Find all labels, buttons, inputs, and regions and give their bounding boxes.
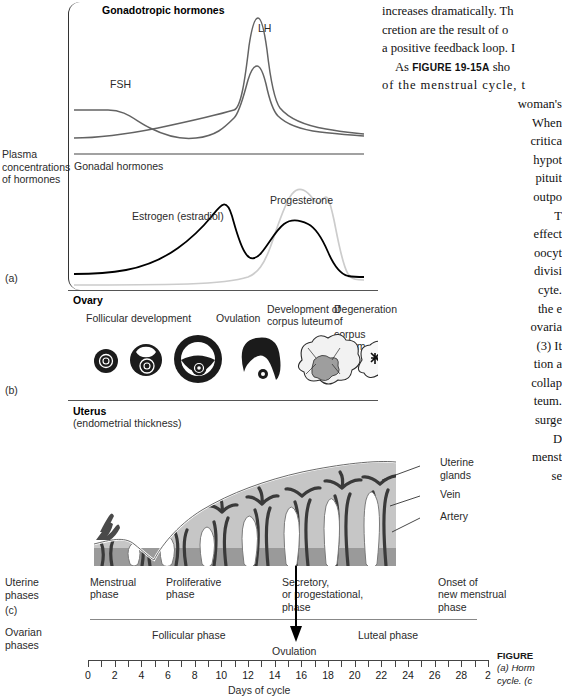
body-line: ovaria: [382, 318, 562, 337]
axis-tick-minor: [448, 660, 449, 667]
body-line: hypot: [382, 151, 562, 170]
axis-tick-label: 28: [455, 669, 467, 681]
ovary-corpus-luteum-developing: [298, 334, 360, 384]
plasma-line3: of hormones: [2, 173, 64, 186]
ovulation-label: Ovulation: [272, 645, 316, 657]
body-text-as: As: [395, 60, 412, 74]
axis-tick-major: [461, 660, 462, 667]
proliferative-l2: phase: [166, 588, 195, 600]
hormone-curves-svg: Gonadal hormones LH FSH Estrogen (estrad…: [68, 2, 364, 290]
panel-c-subtitle: (endometrial thickness): [73, 417, 182, 430]
axis-tick-label: 12: [242, 669, 254, 681]
axis-tick-label: 0: [85, 669, 91, 681]
ovarian-phase-follicular: Follicular phase: [152, 629, 226, 641]
figure-reference: FIGURE 19-15A: [412, 62, 489, 73]
axis-tick-major: [488, 660, 489, 667]
uterine-phases-line1: Uterine: [5, 576, 39, 589]
axis-tick-label: 10: [215, 669, 227, 681]
axis-tick-label: 24: [402, 669, 414, 681]
lh-label-text: LH: [258, 22, 271, 34]
panel-c-tag: (c): [5, 604, 17, 617]
axis-tick-label: 6: [165, 669, 171, 681]
ovary-follicle-1: [94, 349, 118, 373]
onset-l1: Onset of: [438, 576, 478, 588]
ovary-stage-label-development-cl: Development of corpus luteum: [267, 303, 341, 328]
axis-tick-major: [355, 660, 356, 667]
axis-tick-minor: [128, 660, 129, 667]
body-line: divisi: [382, 262, 562, 281]
axis-tick-major: [408, 660, 409, 667]
axis-tick-major: [248, 660, 249, 667]
axis-tick-minor: [341, 660, 342, 667]
menstrual-l2: phase: [90, 588, 119, 600]
ovary-stage-label-ovulation: Ovulation: [216, 312, 260, 324]
uterine-phase-onset-new: Onset of new menstrual phase: [438, 576, 506, 613]
body-line: (3) It: [382, 337, 562, 356]
axis-tick-label: 18: [322, 669, 334, 681]
panel-a-subtitle-text: Gonadal hormones: [74, 160, 163, 172]
body-line: oocyt: [382, 244, 562, 263]
proliferative-l1: Proliferative: [166, 576, 221, 588]
uterine-phases-label: Uterine phases: [5, 576, 39, 601]
axis-tick-major: [168, 660, 169, 667]
plasma-line1: Plasma: [2, 148, 64, 161]
uterine-phases-line2: phases: [5, 589, 39, 602]
ovarian-phases-label: Ovarian phases: [5, 626, 42, 651]
progesterone-label-text: Progesterone: [270, 194, 333, 206]
body-line: teum.: [382, 392, 562, 411]
callout-vein: Vein: [440, 488, 460, 501]
panel-a-tag: (a): [5, 272, 18, 285]
body-line: outpo: [382, 188, 562, 207]
ovarian-phases-line2: phases: [5, 639, 42, 652]
body-line: the e: [382, 300, 562, 319]
axis-tick-label: 8: [192, 669, 198, 681]
axis-tick-major: [275, 660, 276, 667]
ovarian-phases-line1: Ovarian: [5, 626, 42, 639]
uterine-phase-separator: [295, 566, 296, 586]
lead-line-artery: [392, 518, 420, 532]
axis-tick-minor: [421, 660, 422, 667]
ovary-follicle-3: [174, 335, 222, 383]
body-line: effect: [382, 225, 562, 244]
axis-tick-major: [115, 660, 116, 667]
figure-caption: FIGURE (a) Horm cycle. (c: [497, 650, 562, 687]
y-axis-label-plasma: Plasma concentrations of hormones: [2, 148, 64, 186]
body-line: collap: [382, 374, 562, 393]
body-line: tion a: [382, 355, 562, 374]
axis-tick-label: 2: [485, 669, 491, 681]
ovarian-phase-luteal: Luteal phase: [358, 629, 418, 641]
deg-cl-l1: Degeneration of: [334, 303, 397, 327]
axis-tick-minor: [288, 660, 289, 667]
figure-caption-line2: cycle. (c: [497, 675, 532, 686]
callout-glands-line2: glands: [440, 469, 471, 481]
axis-tick-label: 2: [112, 669, 118, 681]
axis-tick-minor: [101, 660, 102, 667]
axis-tick-major: [221, 660, 222, 667]
dev-cl-l1: Development of: [267, 303, 341, 315]
axis-tick-minor: [235, 660, 236, 667]
axis-tick-minor: [208, 660, 209, 667]
onset-l2: new menstrual: [438, 588, 506, 600]
panel-b-title: Ovary: [73, 294, 103, 307]
ovary-stage-label-follicular: Follicular development: [86, 312, 191, 324]
callout-artery: Artery: [440, 510, 468, 523]
endometrium-illustration: [90, 440, 460, 570]
axis-tick-minor: [181, 660, 182, 667]
body-line: of the menstrual cycle, t: [382, 76, 562, 95]
body-line: When: [382, 114, 562, 133]
body-line: pituit: [382, 169, 562, 188]
onset-l3: phase: [438, 601, 467, 613]
figure-caption-line1: (a) Horm: [497, 662, 535, 673]
body-line-figure-ref: As FIGURE 19-15A sho: [382, 58, 562, 77]
dev-cl-l2: corpus luteum: [267, 315, 333, 327]
body-line: critica: [382, 132, 562, 151]
axis-tick-label: 4: [138, 669, 144, 681]
uterine-phase-menstrual: Menstrual phase: [90, 576, 136, 601]
body-line: cretion are the result of o: [382, 21, 562, 40]
body-text-sho: sho: [490, 60, 511, 74]
axis-tick-major: [88, 660, 89, 667]
plasma-line2: concentrations: [2, 161, 64, 174]
ovary-ovulation-illustration: [242, 337, 281, 380]
body-line: surge: [382, 411, 562, 430]
axis-tick-major: [381, 660, 382, 667]
